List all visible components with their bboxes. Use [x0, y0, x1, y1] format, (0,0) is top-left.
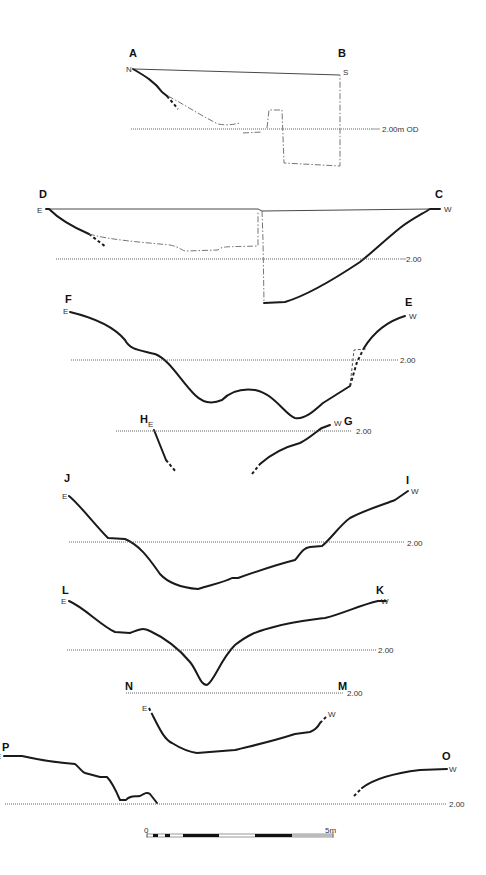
datum-label: 2.00 [406, 255, 422, 264]
section-label-f: F [65, 293, 72, 305]
profile-uncertain [320, 716, 327, 723]
direction-w: W [449, 765, 457, 774]
ground-surface-line [47, 209, 430, 211]
section-label-b: B [338, 47, 346, 59]
direction-e: E [63, 307, 68, 316]
direction-e: E [62, 492, 67, 501]
profile-uncertain [166, 460, 176, 472]
direction-w: W [444, 205, 452, 214]
direction-e: E [0, 752, 1, 761]
section-drawing: A B N S 2.00m OD D C E W 2.00 F E [0, 0, 486, 875]
profile-line [70, 312, 350, 418]
section-j-i: J I E W 2.00 [62, 472, 423, 589]
section-h-g: H G E W 2.00 [116, 413, 372, 474]
section-label-m: M [338, 680, 347, 692]
excavation-outline [243, 132, 262, 133]
section-label-j: J [64, 472, 70, 484]
profile-line [133, 69, 167, 96]
section-d-c: D C E W 2.00 [37, 188, 452, 303]
profile-line [153, 716, 320, 753]
excavation-outline [168, 96, 240, 125]
excavation-outline [262, 211, 264, 303]
excavation-outline [89, 211, 258, 251]
section-label-g: G [344, 415, 353, 427]
section-f-e: F E E W 2.00 [63, 293, 417, 418]
section-label-a: A [129, 47, 137, 59]
direction-w: W [328, 710, 336, 719]
section-label-n: N [125, 680, 133, 692]
section-label-l: L [62, 584, 69, 596]
excavation-outline [267, 75, 340, 166]
profile-uncertain [149, 708, 153, 716]
scale-start-label: 0 [144, 826, 149, 835]
profile-line [4, 756, 157, 803]
datum-label: 2.00 [378, 646, 394, 655]
datum-label: 2.00 [356, 427, 372, 436]
datum-label: 2.00 [400, 356, 416, 365]
datum-label: 2.00 [347, 689, 363, 698]
scale-bar: 0 5m [144, 826, 336, 838]
profile-line [362, 769, 447, 788]
profile-uncertain [252, 464, 260, 474]
section-label-o: O [442, 750, 451, 762]
profile-uncertain [350, 348, 364, 386]
profile-line [46, 209, 89, 234]
section-label-c: C [435, 188, 443, 200]
direction-w: W [411, 487, 419, 496]
direction-n: N [126, 65, 132, 74]
direction-e: E [37, 206, 42, 215]
datum-label: 2.00 [407, 539, 423, 548]
profile-uncertain [354, 788, 362, 796]
direction-e: E [148, 420, 153, 429]
ground-surface-line [134, 69, 340, 75]
profile-line [364, 316, 405, 348]
section-label-d: D [39, 188, 47, 200]
direction-e: E [61, 597, 66, 606]
profile-line [154, 430, 166, 460]
section-label-k: K [376, 584, 384, 596]
profile-line [69, 601, 386, 685]
section-label-h: H [140, 413, 148, 425]
section-n-m: N M E W 2.00 [125, 680, 363, 753]
profile-line [69, 491, 408, 589]
direction-s: S [343, 68, 348, 77]
direction-w: W [334, 419, 342, 428]
section-label-e: E [405, 296, 412, 308]
section-label-i: I [406, 474, 409, 486]
direction-e: E [142, 704, 147, 713]
datum-label: 2.00 [449, 800, 465, 809]
section-label-p: P [2, 741, 9, 753]
section-l-k: L K E W 2.00 [61, 584, 394, 685]
section-p-o: P O E W 2.00 [0, 741, 465, 809]
datum-label: 2.00m OD [382, 125, 419, 134]
scale-end-label: 5m [325, 826, 336, 835]
direction-w: W [409, 312, 417, 321]
section-a-b: A B N S 2.00m OD [126, 47, 419, 166]
